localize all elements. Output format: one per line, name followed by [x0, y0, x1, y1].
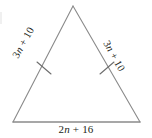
triangle-shape	[0, 0, 152, 138]
triangle-right-side	[73, 6, 140, 122]
triangle-left-side	[13, 6, 73, 122]
bottom-side-length-text: 2n + 16	[58, 123, 93, 135]
bottom-side-length-label: 2n + 16	[0, 124, 152, 135]
geometry-figure: 3n + 10 3n + 10 2n + 16	[0, 0, 152, 138]
